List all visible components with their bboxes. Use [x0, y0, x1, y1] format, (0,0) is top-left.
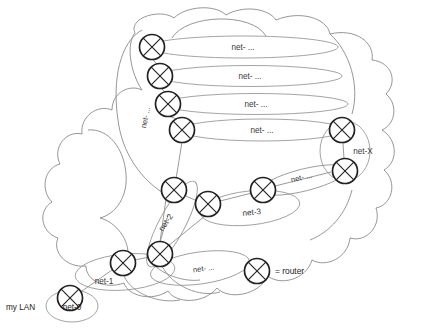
- top-bump-arc: [172, 19, 266, 38]
- router-node-top-1[interactable]: [140, 35, 165, 60]
- network-label-top-2: net- ...: [238, 72, 261, 81]
- legend-text: = router: [275, 266, 304, 276]
- legend-router-icon: [245, 259, 270, 284]
- network-label-top-3: net- ...: [244, 100, 267, 109]
- diagram-canvas: net- ... net- ... net- ... net- ... net-…: [0, 0, 439, 336]
- router-node-right-lower[interactable]: [333, 159, 358, 184]
- network-label-netx: net-X: [353, 147, 373, 156]
- router-node-top-4[interactable]: [170, 118, 195, 143]
- my-lan-caption: my LAN: [6, 303, 35, 312]
- network-label-net3: net-3: [242, 207, 262, 218]
- router-node-top-2[interactable]: [148, 64, 173, 89]
- router-node-mid-center[interactable]: [196, 192, 221, 217]
- network-label-top-1: net- ...: [231, 43, 254, 52]
- network-label-right-diagonal: net- ...: [290, 171, 313, 185]
- network-label-net1: net-1: [95, 277, 114, 286]
- network-label-spine-vertical: net- ...: [139, 106, 152, 129]
- internet-cloud-outline: [43, 8, 394, 301]
- router-node-mid-left[interactable]: [162, 178, 187, 203]
- network-diagram: net- ... net- ... net- ... net- ... net-…: [0, 0, 439, 336]
- router-node-low-center[interactable]: [148, 242, 173, 267]
- router-node-top-3[interactable]: [156, 92, 181, 117]
- network-label-net0: net-0: [63, 303, 82, 312]
- router-node-right-upper[interactable]: [330, 118, 355, 143]
- network-label-top-4: net- ...: [250, 126, 273, 135]
- network-label-low-dots: net- ...: [192, 263, 215, 275]
- network-label-net2: net-2: [157, 212, 175, 233]
- router-node-low-left[interactable]: [111, 251, 136, 276]
- router-node-mid-right[interactable]: [251, 178, 276, 203]
